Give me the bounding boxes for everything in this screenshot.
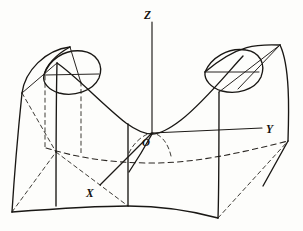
z-axis-label: Z: [143, 9, 151, 21]
labels-group: Z Y X O: [85, 9, 274, 199]
dashed-base-right-diagonal: [218, 141, 288, 218]
left-inner-vertical-edge: [56, 63, 57, 206]
hidden-lines-group: [12, 76, 288, 218]
y-axis-label: Y: [266, 123, 274, 135]
valley-front-profile: [57, 56, 243, 134]
right-peak-ridge-line: [238, 45, 280, 89]
surface-diagram: Z Y X O: [0, 0, 303, 231]
right-peak-rim-ellipse: [205, 50, 263, 93]
dashed-base-left-diagonal: [12, 152, 56, 212]
origin-label: O: [142, 136, 150, 148]
left-rim-horizontal-line: [45, 74, 99, 75]
left-front-vertical-edge: [12, 93, 22, 212]
right-inner-vertical-edge: [218, 92, 219, 218]
right-outer-wall-curve: [280, 45, 289, 141]
bottom-front-curve: [12, 206, 218, 218]
back-dashed-contour-path: [46, 141, 288, 163]
right-outer-lower-edge: [263, 141, 288, 186]
axes-group: [100, 22, 262, 185]
dashed-base-left-to-corner: [22, 93, 56, 152]
surface-outline-group: [12, 45, 289, 218]
x-axis-label: X: [85, 187, 94, 199]
figure-canvas: Z Y X O: [0, 0, 303, 231]
left-peak-rim-ellipse: [44, 51, 101, 94]
